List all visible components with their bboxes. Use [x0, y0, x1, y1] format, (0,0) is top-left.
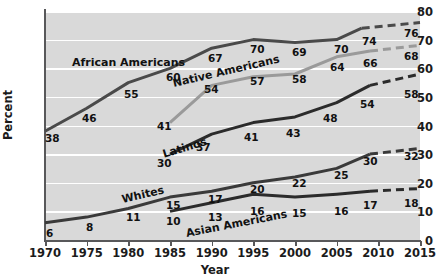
value-label: 8: [86, 222, 93, 233]
value-label: 67: [208, 53, 223, 64]
value-label: 38: [45, 133, 60, 144]
value-label: 54: [360, 99, 375, 110]
value-label: 30: [363, 156, 378, 167]
value-label: 60: [166, 72, 181, 83]
value-label: 30: [157, 158, 172, 169]
value-label: 13: [208, 212, 223, 223]
value-label: 16: [334, 206, 349, 217]
value-label: 66: [363, 58, 378, 69]
value-label: 64: [330, 62, 345, 73]
value-label: 22: [292, 178, 307, 189]
value-label: 70: [334, 44, 349, 55]
series-line-latinos-projected: [370, 74, 420, 85]
value-label: 74: [362, 36, 377, 47]
value-label: 32: [404, 151, 419, 162]
value-label: 37: [196, 142, 211, 153]
value-label: 17: [363, 200, 378, 211]
series-line-asian-americans-projected: [370, 189, 420, 192]
value-label: 54: [204, 84, 219, 95]
value-label: 41: [157, 121, 172, 132]
value-label: 57: [250, 76, 265, 87]
value-label: 25: [334, 170, 349, 181]
value-label: 11: [126, 212, 141, 223]
value-label: 10: [166, 216, 181, 227]
value-label: 55: [124, 89, 139, 100]
value-label: 15: [292, 208, 307, 219]
value-label: 76: [404, 28, 419, 39]
series-label-african-americans: African Americans: [72, 57, 185, 68]
value-label: 6: [46, 228, 53, 239]
value-label: 69: [292, 47, 307, 58]
value-label: 58: [292, 74, 307, 85]
value-label: 58: [404, 89, 419, 100]
value-label: 46: [82, 113, 97, 124]
value-label: 68: [404, 51, 419, 62]
value-label: 43: [286, 128, 301, 139]
value-label: 17: [208, 194, 223, 205]
value-label: 16: [250, 206, 265, 217]
value-label: 15: [166, 200, 181, 211]
value-label: 48: [323, 113, 338, 124]
value-label: 18: [404, 198, 419, 209]
value-label: 70: [250, 44, 265, 55]
value-label: 41: [244, 132, 259, 143]
value-label: 20: [250, 184, 265, 195]
